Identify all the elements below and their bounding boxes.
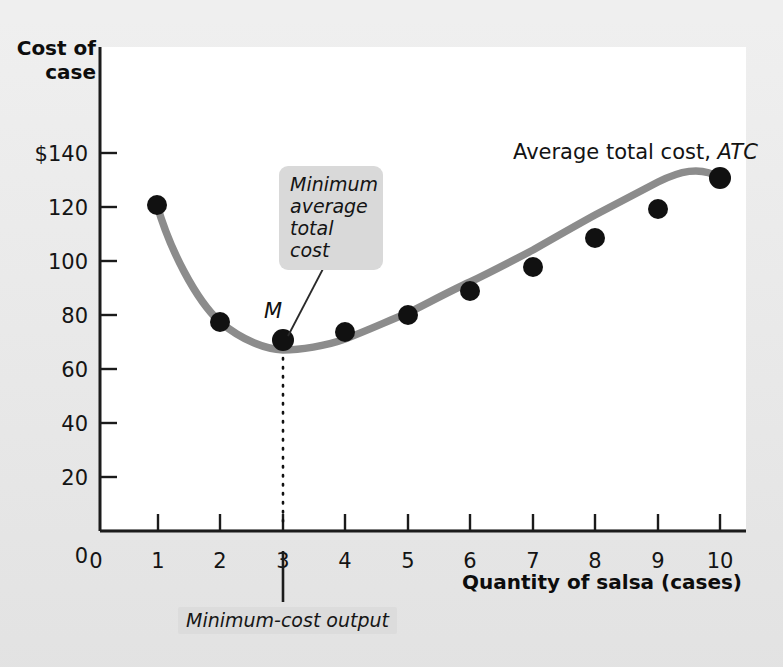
x-axis-title: Quantity of salsa (cases) — [462, 570, 742, 594]
chart-svg: $140 120 100 80 60 40 20 0 0 1 2 — [0, 0, 783, 667]
atc-curve — [157, 171, 720, 350]
y-tick-label-5: 40 — [61, 412, 88, 436]
y-axis-tick-labels: $140 120 100 80 60 40 20 0 — [35, 142, 88, 568]
minimum-cost-callout: Minimum average total cost — [279, 166, 383, 270]
x-axis-ticks — [158, 514, 720, 531]
data-point-2 — [210, 312, 230, 332]
data-points — [147, 167, 731, 351]
y-axis-ticks — [100, 153, 117, 477]
data-point-6 — [460, 281, 480, 301]
figure-canvas: Cost of case $140 120 100 80 60 40 20 0 — [0, 0, 783, 667]
y-tick-label-1: 120 — [48, 196, 88, 220]
data-point-9 — [648, 199, 668, 219]
callout-line-1: Minimum — [290, 173, 373, 195]
y-tick-label-6: 20 — [61, 466, 88, 490]
callout-line-2: average — [290, 195, 373, 217]
data-point-1 — [147, 195, 167, 215]
y-tick-label-4: 60 — [61, 358, 88, 382]
callout-leader-line — [288, 265, 325, 336]
data-point-10 — [709, 167, 731, 189]
x-tick-label-1: 1 — [151, 549, 164, 573]
series-label-text: Average total cost, — [513, 140, 718, 164]
x-tick-label-0: 0 — [89, 549, 102, 573]
callout-line-3: total cost — [290, 217, 373, 261]
y-tick-label-0: $140 — [35, 142, 88, 166]
x-tick-label-4: 4 — [338, 549, 351, 573]
series-label-italic: ATC — [716, 140, 759, 164]
series-label: Average total cost, ATC — [513, 140, 758, 164]
y-tick-label-2: 100 — [48, 250, 88, 274]
x-tick-label-2: 2 — [213, 549, 226, 573]
x-tick-label-5: 5 — [401, 549, 414, 573]
minimum-point-label: M — [264, 299, 282, 323]
data-point-8 — [585, 228, 605, 248]
minimum-cost-output-note: Minimum-cost output — [178, 607, 397, 634]
y-tick-label-3: 80 — [61, 304, 88, 328]
data-point-4 — [335, 322, 355, 342]
y-tick-label-7: 0 — [75, 544, 88, 568]
data-point-5 — [398, 305, 418, 325]
data-point-7 — [523, 257, 543, 277]
